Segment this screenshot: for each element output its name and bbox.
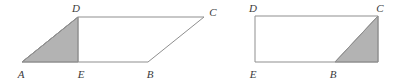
label-d-right: D — [248, 2, 257, 14]
label-c-right: C — [376, 2, 384, 14]
label-c-left: C — [209, 6, 217, 18]
label-d-left: D — [71, 2, 80, 14]
label-b-right: B — [330, 68, 337, 80]
label-e-right: E — [249, 68, 257, 80]
geometry-figure-canvas: D C A E B D C E B — [0, 0, 404, 83]
label-e-left: E — [77, 68, 85, 80]
label-b-left: B — [147, 68, 154, 80]
label-a-left: A — [17, 68, 25, 80]
